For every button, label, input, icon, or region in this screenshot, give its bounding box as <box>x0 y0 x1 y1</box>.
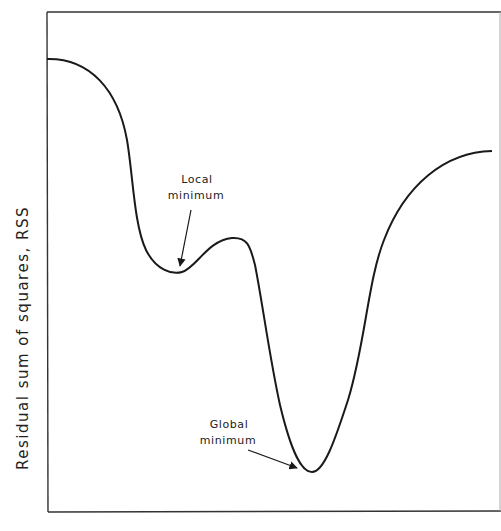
global-minimum-label-line2: minimum <box>200 434 256 447</box>
y-axis-label: Residual sum of squares, RSS <box>14 206 32 470</box>
local-minimum-label-line1: Local <box>181 173 213 186</box>
local-minimum-label-line2: minimum <box>168 189 224 202</box>
plot-frame <box>47 12 501 512</box>
local-minimum-arrow-icon <box>180 210 191 266</box>
local-minimum-annotation: Local minimum <box>168 173 224 266</box>
global-minimum-arrow-icon <box>248 450 297 468</box>
rss-error-surface-diagram: Residual sum of squares, RSS Local minim… <box>0 0 501 531</box>
global-minimum-label-line1: Global <box>210 418 249 431</box>
global-minimum-annotation: Global minimum <box>200 418 297 468</box>
rss-curve <box>47 59 492 472</box>
